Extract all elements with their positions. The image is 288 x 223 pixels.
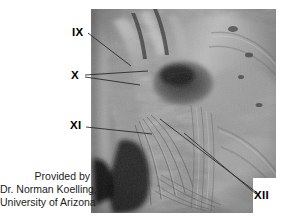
- caption-line-2: Dr. Norman Koelling,: [0, 183, 90, 196]
- caption-line-3: University of Arizona: [0, 196, 90, 209]
- label-nerve-xii: XII: [254, 190, 269, 202]
- attribution-caption: Provided by Dr. Norman Koelling, Univers…: [0, 170, 90, 209]
- label-nerve-ix: IX: [72, 27, 83, 39]
- photograph-image: [91, 9, 276, 213]
- label-nerve-xi: XI: [70, 120, 81, 132]
- caption-line-1: Provided by: [0, 170, 90, 183]
- label-nerve-x: X: [71, 70, 79, 82]
- dissection-photograph: [91, 9, 276, 213]
- anatomy-figure: IX X XI XII Provided by Dr. Norman Koell…: [0, 0, 288, 223]
